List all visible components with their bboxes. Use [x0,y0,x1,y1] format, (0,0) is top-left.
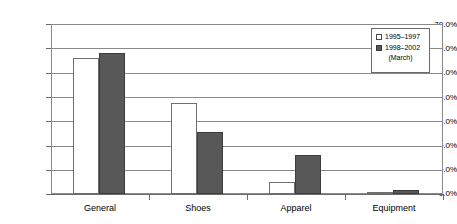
legend-item-1995-1997: 1995–1997 [372,33,429,41]
bar-apparel-1995-1997 [269,182,295,194]
chart-legend: 1995–1997 1998–2002 (March) [371,28,430,73]
bar-shoes-1998-2002 [197,132,223,194]
x-tick-label-equipment: Equipment [345,203,443,213]
bar-general-1995-1997 [73,58,99,194]
x-tick-mark [247,195,248,200]
legend-label: 1995–1997 [385,33,420,41]
legend-swatch-icon [376,34,382,40]
x-tick-mark [149,195,150,200]
legend-label: 1998–2002 [385,44,420,52]
bar-chart: 70.0% 60.0% 50.0% 40.0% 30.0% 20.0% 10.0… [0,0,457,224]
legend-item-1998-2002: 1998–2002 [372,44,429,52]
legend-sublabel: (March) [372,54,429,62]
x-tick-label-shoes: Shoes [149,203,247,213]
x-tick-label-apparel: Apparel [247,203,345,213]
bar-general-1998-2002 [99,53,125,194]
x-tick-mark [345,195,346,200]
x-tick-mark [443,195,444,200]
legend-swatch-icon [376,45,382,51]
bar-shoes-1995-1997 [171,103,197,194]
bar-apparel-1998-2002 [295,155,321,194]
x-tick-label-general: General [51,203,149,213]
